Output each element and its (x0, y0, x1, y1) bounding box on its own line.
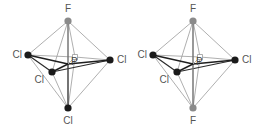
right-atom-top-label: F (190, 3, 196, 14)
right-atom-bottom-vertex (189, 104, 196, 111)
right-atom-bottom-label: F (190, 115, 196, 126)
left-edge-east-back (75, 57, 110, 60)
molecule-right: F Cl Cl Cl F P (138, 3, 252, 126)
molecular-structure-diagram: F Cl Cl Cl Cl P (0, 0, 265, 131)
right-atom-west-vertex (149, 51, 156, 58)
left-atom-bottom-label: Cl (63, 115, 72, 126)
left-atom-west-label: Cl (13, 49, 22, 60)
left-edge-top-west (28, 21, 68, 55)
right-bonds (153, 21, 235, 108)
right-atom-front-label: Cl (160, 74, 169, 85)
left-atom-east-vertex (106, 56, 113, 63)
right-edge-top-front (177, 21, 193, 72)
left-atom-front-label: Cl (35, 74, 44, 85)
right-center-label: P (196, 56, 203, 67)
left-atom-top-label: F (65, 3, 71, 14)
left-edge-top-front (52, 21, 68, 72)
right-atom-east-vertex (231, 56, 238, 63)
molecule-left: F Cl Cl Cl Cl P (13, 3, 127, 126)
right-atom-west-label: Cl (138, 49, 147, 60)
right-atom-top-vertex (189, 17, 196, 24)
right-edge-east-back (200, 57, 235, 60)
left-atom-bottom-vertex (64, 104, 71, 111)
left-bonds (28, 21, 110, 108)
right-edge-top-west (153, 21, 193, 55)
molecule-canvas: F Cl Cl Cl Cl P (0, 0, 265, 131)
left-atom-east-label: Cl (117, 54, 126, 65)
right-atom-front-vertex (173, 68, 180, 75)
right-atom-east-label: Cl (242, 54, 251, 65)
left-atom-top-vertex (64, 17, 71, 24)
left-atom-west-vertex (24, 51, 31, 58)
left-center-label: P (71, 56, 78, 67)
left-atom-front-vertex (48, 68, 55, 75)
